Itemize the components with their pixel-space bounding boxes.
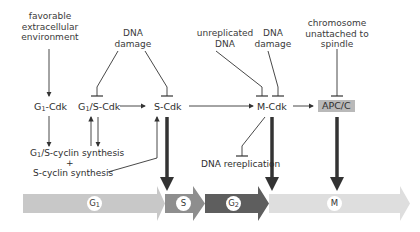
phase-label-g2: G2 bbox=[226, 196, 241, 211]
s-cyclin-synthesis: S-cyclin synthesis bbox=[33, 168, 113, 179]
node-m-cdk: M-Cdk bbox=[257, 101, 287, 112]
phase-label-m: M bbox=[327, 196, 342, 211]
node-s-cdk: S-Cdk bbox=[154, 101, 182, 112]
phase-label-s: S bbox=[176, 196, 191, 211]
signal-dna-damage-2: DNA damage bbox=[250, 28, 296, 49]
node-apc-c: APC/C bbox=[318, 100, 355, 112]
g1s-cyclin-synthesis: G1/S-cyclin synthesis bbox=[30, 148, 124, 161]
node-g1s-cdk: G1/S-Cdk bbox=[78, 101, 120, 115]
dna-rereplication: DNA rereplication bbox=[201, 159, 280, 170]
signal-chromosome-unattached: chromosome unattached to spindle bbox=[297, 18, 377, 50]
signal-dna-damage-1: DNA damage bbox=[110, 28, 156, 49]
phase-arrows bbox=[23, 186, 410, 221]
node-g1-cdk: G1-Cdk bbox=[34, 101, 67, 115]
phase-label-g1: G1 bbox=[87, 196, 102, 211]
signal-favorable-environment: favorable extracellular environment bbox=[10, 11, 90, 43]
